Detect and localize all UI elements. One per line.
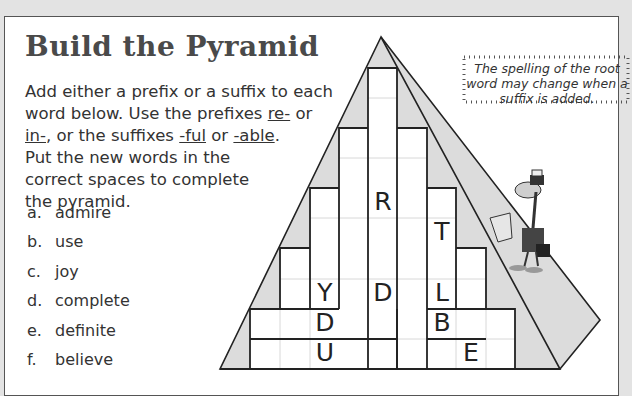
pyramid-letter: D	[310, 308, 340, 337]
pyramid-letter: D	[368, 278, 398, 307]
pyramid-letter: R	[368, 187, 398, 216]
pyramid-letter: L	[427, 278, 457, 307]
pyramid-letter: Y	[310, 278, 340, 307]
pyramid-letter: B	[427, 308, 457, 337]
pyramid-letter: E	[456, 338, 486, 367]
pyramid-letter: U	[310, 338, 340, 367]
spelling-note: The spelling of the root word may change…	[466, 58, 628, 101]
pyramid-letter: T	[427, 217, 457, 246]
